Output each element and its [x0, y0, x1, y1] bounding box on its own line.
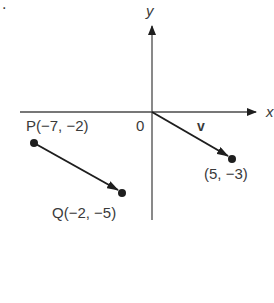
point-v-end-label: (5, −3) — [204, 166, 248, 181]
point-q — [118, 189, 126, 197]
point-v-end — [228, 155, 236, 163]
vector-pq — [34, 143, 118, 190]
point-p — [30, 139, 38, 147]
origin-label: 0 — [136, 118, 144, 133]
x-axis-label: x — [266, 104, 274, 119]
vector-v — [152, 112, 228, 156]
problem-number-fragment: . — [2, 0, 6, 12]
point-p-label: P(−7, −2) — [26, 118, 89, 133]
coordinate-diagram — [0, 0, 274, 303]
vector-v-label: v — [197, 119, 205, 133]
point-q-label: Q(−2, −5) — [52, 205, 116, 220]
y-axis-label: y — [146, 3, 154, 18]
